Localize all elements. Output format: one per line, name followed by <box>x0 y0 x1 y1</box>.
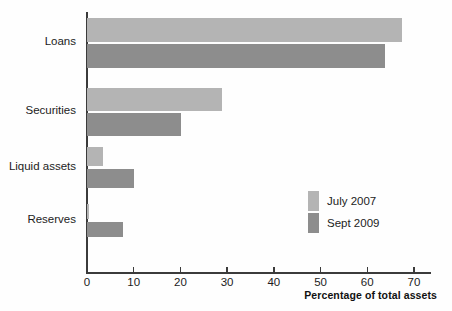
x-tick-label: 20 <box>165 276 195 288</box>
bank-balance-sheet-bar-chart: LoansSecuritiesLiquid assetsReserves 010… <box>0 0 452 311</box>
category-label-liquid-assets: Liquid assets <box>0 160 76 172</box>
x-tick-mark <box>133 267 135 273</box>
category-label-securities: Securities <box>0 104 76 116</box>
category-label-reserves: Reserves <box>0 213 76 225</box>
x-tick-label: 10 <box>119 276 149 288</box>
x-tick-label: 0 <box>72 276 102 288</box>
bar-reserves-sept-2009 <box>87 222 123 237</box>
x-tick-label: 30 <box>212 276 242 288</box>
category-axis-labels: LoansSecuritiesLiquid assetsReserves <box>0 0 79 311</box>
bar-reserves-july-2007 <box>87 204 89 219</box>
legend-item-0: July 2007 <box>308 190 379 212</box>
legend-swatch-july-2007 <box>308 191 319 211</box>
bar-securities-sept-2009 <box>87 113 181 136</box>
category-label-loans: Loans <box>0 35 76 47</box>
bar-liquid-assets-july-2007 <box>87 147 103 166</box>
bar-loans-sept-2009 <box>87 44 385 68</box>
x-tick-label: 60 <box>352 276 382 288</box>
bar-loans-july-2007 <box>87 18 402 42</box>
x-tick-mark <box>180 267 182 273</box>
x-axis-title: Percentage of total assets <box>0 289 437 301</box>
x-tick-mark <box>320 267 322 273</box>
legend-label-july-2007: July 2007 <box>327 195 376 207</box>
bar-securities-july-2007 <box>87 88 222 111</box>
legend: July 2007 Sept 2009 <box>308 190 379 234</box>
x-tick-mark <box>367 267 369 273</box>
x-tick-label: 70 <box>399 276 429 288</box>
x-tick-label: 40 <box>259 276 289 288</box>
legend-swatch-sept-2009 <box>308 213 319 233</box>
x-tick-mark <box>86 267 88 273</box>
x-tick-mark <box>226 267 228 273</box>
x-tick-mark <box>413 267 415 273</box>
x-tick-mark <box>273 267 275 273</box>
legend-item-1: Sept 2009 <box>308 212 379 234</box>
x-tick-label: 50 <box>306 276 336 288</box>
x-axis-line <box>86 272 431 274</box>
legend-label-sept-2009: Sept 2009 <box>327 217 379 229</box>
bar-liquid-assets-sept-2009 <box>87 169 134 188</box>
